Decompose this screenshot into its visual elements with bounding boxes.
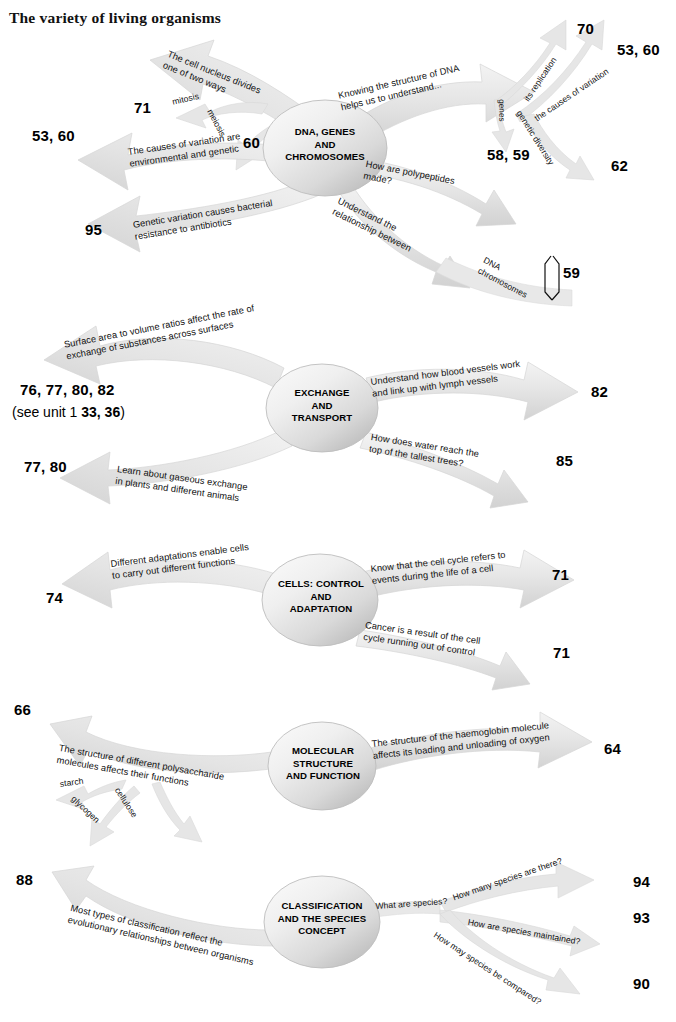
page-ref-polysaccharide-structure: 66 <box>14 701 31 718</box>
page-ref-how-species-compared: 90 <box>633 975 650 992</box>
page-ref-note-prefix: (see unit 1 <box>12 404 81 420</box>
diagram-artwork <box>0 0 676 1022</box>
page-ref-mitosis: 71 <box>134 99 151 116</box>
page-ref-causes-variation: 53, 60 <box>32 127 75 144</box>
page-ref-genetic-diversity: 62 <box>611 157 628 174</box>
page-ref-meiosis: 60 <box>243 134 260 151</box>
diagram-canvas: The variety of living organisms DNA, GEN… <box>0 0 676 1022</box>
page-ref-gaseous-exchange: 77, 80 <box>24 458 67 475</box>
page-ref-blood-vessels: 82 <box>591 383 608 400</box>
page-ref-haemoglobin: 64 <box>604 740 621 757</box>
page-ref-causes-variation-right: 53, 60 <box>617 41 660 58</box>
page-ref-genes: 58, 59 <box>487 146 530 163</box>
page-title: The variety of living organisms <box>9 9 221 27</box>
page-ref-genetic-variation-bacterial: 95 <box>85 221 102 238</box>
page-ref-dna-chromosomes: 59 <box>563 264 580 281</box>
page-ref-its-replication: 70 <box>577 20 594 37</box>
page-ref-water-tallest-trees: 85 <box>556 452 573 469</box>
page-ref-different-adaptations: 74 <box>46 589 63 606</box>
page-ref-surface-area-volume: 76, 77, 80, 82 <box>20 381 115 398</box>
page-ref-cell-cycle-events: 71 <box>552 566 569 583</box>
page-ref-surface-area-note: (see unit 1 33, 36) <box>12 404 125 420</box>
page-ref-note-suffix: ) <box>120 404 125 420</box>
page-ref-how-many-species: 94 <box>633 873 650 890</box>
page-ref-cancer-cell-cycle: 71 <box>553 644 570 661</box>
page-ref-types-of-classification: 88 <box>16 871 33 888</box>
page-ref-how-species-maintained: 93 <box>633 909 650 926</box>
page-ref-note-bold: 33, 36 <box>81 404 120 420</box>
branch-label-genes: genes <box>495 99 507 122</box>
